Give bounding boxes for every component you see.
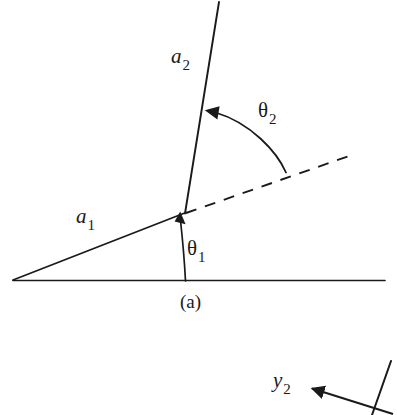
axis-y2-label-sub: 2 (283, 381, 291, 397)
link-a2-label-base: a (171, 44, 182, 68)
dashed-extension-line (186, 155, 352, 213)
theta1-arc (181, 221, 186, 282)
link-a2-label-sub: 2 (183, 57, 191, 73)
figure-container: a1 a2 θ1 θ2 y2 (a) (0, 0, 397, 415)
link-a1-label-sub: 1 (88, 217, 96, 233)
angle-theta2-label-base: θ (258, 98, 268, 122)
link-a1-label-base: a (76, 204, 87, 228)
frame2-axis-line (372, 361, 391, 415)
axis-y2-label: y2 (273, 370, 290, 391)
angle-theta1-label-base: θ (187, 236, 197, 260)
link-a1-line (13, 213, 186, 281)
angle-theta2-label: θ2 (258, 100, 276, 121)
axis-y2-label-base: y (273, 368, 282, 392)
kinematic-diagram-svg (0, 0, 397, 415)
theta2-arrowhead (205, 106, 220, 119)
link-a2-label: a2 (171, 46, 189, 67)
figure-part-caption: (a) (180, 292, 201, 311)
angle-theta1-label-sub: 1 (198, 249, 206, 265)
angle-theta1-label: θ1 (187, 238, 205, 259)
link-a1-label: a1 (76, 206, 94, 227)
angle-theta2-label-sub: 2 (269, 111, 277, 127)
